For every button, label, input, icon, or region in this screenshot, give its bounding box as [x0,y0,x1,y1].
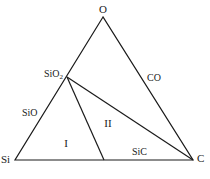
outer-triangle [15,17,193,160]
vertex-label-si: Si [1,153,10,165]
region-label-2: II [104,117,112,129]
vertex-label-o: O [99,3,107,15]
compound-label-sio2: SiO2 [44,68,64,81]
compound-label-subscript: 2 [60,73,64,81]
vertex-label-c: C [197,152,204,164]
region-label-1: I [64,137,68,149]
ternary-diagram: O Si C SiO2 CO SiO SiC II I [0,0,210,179]
edge-label-co: CO [147,72,161,83]
edge-label-sic: SiC [132,146,147,157]
compound-label-base: SiO [44,68,60,79]
edge-label-sio: SiO [22,107,38,118]
